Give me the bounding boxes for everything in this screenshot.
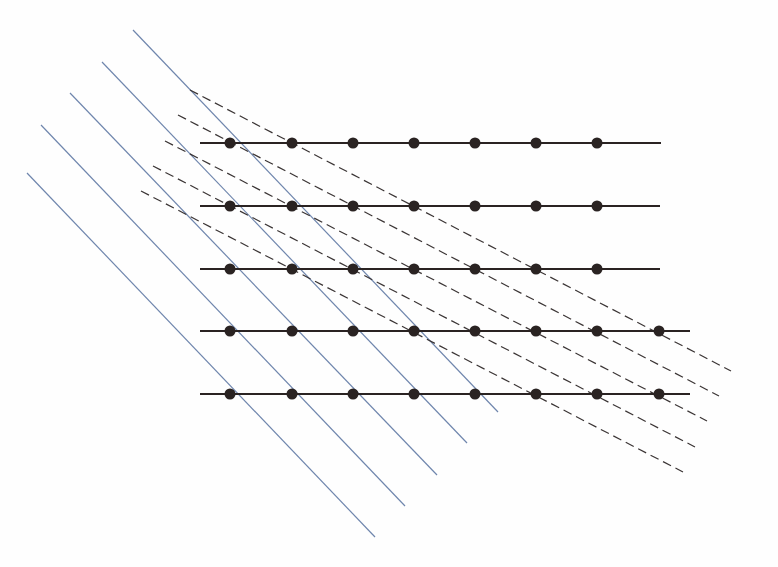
lattice-point-r5-c3 bbox=[348, 389, 359, 400]
lattice-point-r3-c5 bbox=[470, 264, 481, 275]
lattice-point-r4-c2 bbox=[287, 326, 298, 337]
lattice-diagram-svg bbox=[0, 0, 778, 567]
lattice-point-r2-c5 bbox=[470, 201, 481, 212]
lattice-point-r5-c1 bbox=[225, 389, 236, 400]
lattice-point-r3-c7 bbox=[592, 264, 603, 275]
blue-line-2 bbox=[102, 62, 467, 443]
lattice-point-r5-c7 bbox=[592, 389, 603, 400]
lattice-point-r2-c6 bbox=[531, 201, 542, 212]
lattice-point-r3-c2 bbox=[287, 264, 298, 275]
lattice-point-r1-c1 bbox=[225, 138, 236, 149]
lattice-point-r5-c6 bbox=[531, 389, 542, 400]
lattice-point-r1-c4 bbox=[409, 138, 420, 149]
lattice-point-r4-c1 bbox=[225, 326, 236, 337]
lattice-diagram bbox=[0, 0, 778, 567]
lattice-point-r1-c6 bbox=[531, 138, 542, 149]
lattice-point-r2-c7 bbox=[592, 201, 603, 212]
lattice-point-r2-c3 bbox=[348, 201, 359, 212]
lattice-point-r1-c5 bbox=[470, 138, 481, 149]
lattice-point-r1-c2 bbox=[287, 138, 298, 149]
lattice-point-r5-c2 bbox=[287, 389, 298, 400]
lattice-point-r5-c5 bbox=[470, 389, 481, 400]
lattice-point-r3-c1 bbox=[225, 264, 236, 275]
lattice-point-r5-c8 bbox=[654, 389, 665, 400]
lattice-point-r4-c5 bbox=[470, 326, 481, 337]
lattice-point-r2-c1 bbox=[225, 201, 236, 212]
blue-parallel-lines bbox=[27, 30, 498, 537]
lattice-point-r4-c7 bbox=[592, 326, 603, 337]
lattice-point-r4-c3 bbox=[348, 326, 359, 337]
lattice-point-r1-c3 bbox=[348, 138, 359, 149]
lattice-point-r3-c3 bbox=[348, 264, 359, 275]
lattice-point-r2-c2 bbox=[287, 201, 298, 212]
lattice-point-r3-c6 bbox=[531, 264, 542, 275]
blue-line-4 bbox=[41, 125, 405, 506]
lattice-point-r1-c7 bbox=[592, 138, 603, 149]
lattice-point-r3-c4 bbox=[409, 264, 420, 275]
lattice-point-r5-c4 bbox=[409, 389, 420, 400]
lattice-point-r2-c4 bbox=[409, 201, 420, 212]
blue-line-5 bbox=[27, 173, 375, 537]
dashed-line-3 bbox=[165, 141, 707, 421]
dashed-line-1 bbox=[190, 90, 731, 371]
blue-line-3 bbox=[70, 93, 437, 475]
lattice-point-r4-c4 bbox=[409, 326, 420, 337]
lattice-point-r4-c6 bbox=[531, 326, 542, 337]
lattice-point-r4-c8 bbox=[654, 326, 665, 337]
